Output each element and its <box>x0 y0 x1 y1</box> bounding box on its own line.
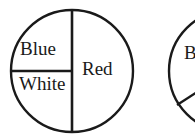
diagram-canvas: Blue White Red B <box>0 0 195 136</box>
secondary-circle-outline <box>169 10 195 132</box>
segment-label-blue: Blue <box>20 39 56 58</box>
secondary-diagonal-divider-line <box>177 85 195 105</box>
segment-label-red: Red <box>82 59 113 78</box>
segment-label-white: White <box>19 74 65 93</box>
secondary-segment-label-blue: B <box>184 43 195 62</box>
